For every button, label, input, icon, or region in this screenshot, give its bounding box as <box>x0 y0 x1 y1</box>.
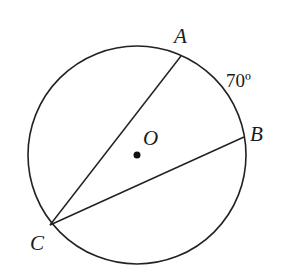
label-a: A <box>172 24 187 48</box>
geometry-diagram: A B C O 70º <box>0 0 287 276</box>
chord-ca <box>50 56 181 225</box>
label-o: O <box>143 126 158 150</box>
label-c: C <box>30 231 45 255</box>
center-point-o <box>134 152 141 159</box>
chord-cb <box>50 137 244 225</box>
label-b: B <box>250 122 263 146</box>
arc-ab-measure: 70º <box>226 70 251 91</box>
